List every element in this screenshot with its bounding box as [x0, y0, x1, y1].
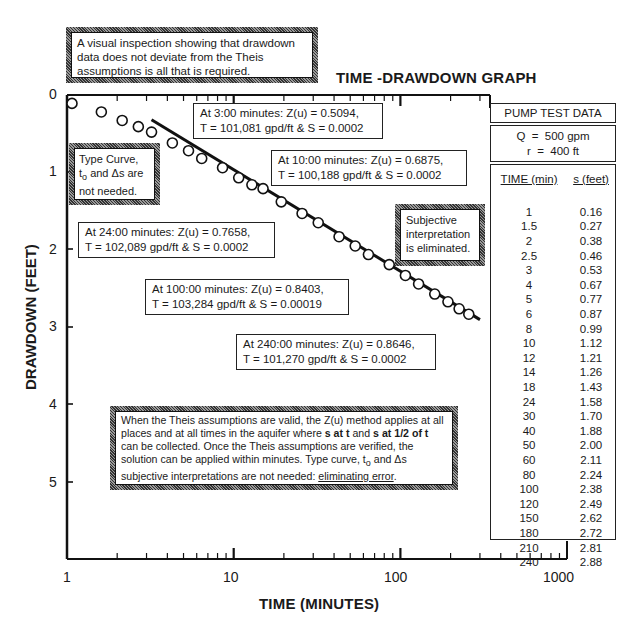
note-type-curve-line2: to and Δs are [79, 166, 150, 184]
drawdown-cell: 2.38 [567, 482, 615, 497]
time-cell: 30 [491, 409, 567, 424]
table-row: 1502.62 [491, 511, 615, 526]
data-point [197, 153, 207, 163]
time-cell: 2.5 [491, 248, 567, 263]
time-cell: 180 [491, 526, 567, 541]
table-row: 241.58 [491, 394, 615, 409]
table-row: 30.53 [491, 263, 615, 278]
data-point [363, 250, 373, 260]
table-row: 1802.72 [491, 526, 615, 541]
drawdown-cell: 2.49 [567, 496, 615, 511]
time-cell: 100 [491, 482, 567, 497]
table-row: 802.24 [491, 467, 615, 482]
table-row: 2402.88 [491, 555, 615, 570]
table-row: 10.16 [491, 205, 615, 220]
data-point [384, 260, 394, 270]
table-row: 502.00 [491, 438, 615, 453]
time-cell: 8 [491, 321, 567, 336]
data-point [350, 241, 360, 251]
time-cell: 1 [491, 205, 567, 220]
time-cell: 3 [491, 263, 567, 278]
pump-test-title: PUMP TEST DATA [490, 103, 616, 123]
drawdown-cell: 2.24 [567, 467, 615, 482]
drawdown-cell: 0.38 [567, 234, 615, 249]
data-point [147, 127, 157, 137]
time-cell: 120 [491, 496, 567, 511]
note-subjective-line2: interpretation [406, 227, 474, 241]
drawdown-cell: 1.12 [567, 336, 615, 351]
data-point [464, 309, 474, 319]
data-point [297, 208, 307, 218]
data-point [117, 115, 127, 125]
pump-test-panel: PUMP TEST DATA Q = 500 gpm r = 400 ft TI… [490, 103, 616, 542]
drawdown-cell: 0.16 [567, 205, 615, 220]
time-cell: 10 [491, 336, 567, 351]
data-point [234, 173, 244, 183]
time-cell: 40 [491, 424, 567, 439]
col-time-header: TIME (min) [501, 173, 558, 185]
time-cell: 1.5 [491, 219, 567, 234]
time-cell: 18 [491, 380, 567, 395]
drawdown-cell: 2.81 [567, 540, 615, 555]
time-cell: 80 [491, 467, 567, 482]
table-row: 2102.81 [491, 540, 615, 555]
time-cell: 12 [491, 351, 567, 366]
time-cell: 4 [491, 278, 567, 293]
table-row: 602.11 [491, 453, 615, 468]
annotation-3min: At 3:00 minutes: Z(u) = 0.5094,T = 101,0… [193, 103, 383, 139]
data-point [218, 163, 228, 173]
table-row: 121.21 [491, 351, 615, 366]
drawdown-cell: 1.21 [567, 351, 615, 366]
data-point [184, 146, 194, 156]
drawdown-cell: 1.58 [567, 394, 615, 409]
table-row: 50.77 [491, 292, 615, 307]
note-type-curve: Type Curve, to and Δs are not needed. [69, 143, 160, 205]
pump-test-table: TIME (min) s (feet) 10.161.50.2720.382.5… [490, 164, 616, 540]
data-point [443, 297, 453, 307]
drawdown-cell: 2.72 [567, 526, 615, 541]
note-bottom: When the Theis assumptions are valid, th… [110, 406, 458, 490]
table-row: 80.99 [491, 321, 615, 336]
drawdown-cell: 2.00 [567, 438, 615, 453]
drawdown-cell: 0.77 [567, 292, 615, 307]
drawdown-cell: 0.87 [567, 307, 615, 322]
note-type-curve-line1: Type Curve, [79, 152, 150, 166]
col-s-header: s (feet) [573, 173, 609, 185]
drawdown-cell: 1.70 [567, 409, 615, 424]
table-row: 101.12 [491, 336, 615, 351]
table-row: 2.50.46 [491, 248, 615, 263]
drawdown-cell: 2.62 [567, 511, 615, 526]
drawdown-cell: 2.11 [567, 453, 615, 468]
annotation-240min: At 240:00 minutes: Z(u) = 0.8646,T = 101… [236, 334, 436, 370]
data-point [247, 180, 257, 190]
table-row: 1202.49 [491, 496, 615, 511]
data-point [334, 232, 344, 242]
pump-q: Q = 500 gpm [491, 129, 615, 144]
time-cell: 5 [491, 292, 567, 307]
time-cell: 6 [491, 307, 567, 322]
time-cell: 2 [491, 234, 567, 249]
table-row: 60.87 [491, 307, 615, 322]
drawdown-cell: 0.99 [567, 321, 615, 336]
table-row: 40.67 [491, 278, 615, 293]
time-cell: 240 [491, 555, 567, 570]
time-cell: 14 [491, 365, 567, 380]
drawdown-cell: 0.67 [567, 278, 615, 293]
drawdown-cell: 0.27 [567, 219, 615, 234]
data-point [276, 197, 286, 207]
data-point [133, 122, 143, 132]
time-cell: 60 [491, 453, 567, 468]
drawdown-cell: 0.53 [567, 263, 615, 278]
annotation-24min: At 24:00 minutes: Z(u) = 0.7658,T = 102,… [78, 222, 275, 258]
annotation-10min: At 10:00 minutes: Z(u) = 0.6875,T = 100,… [271, 150, 467, 186]
drawdown-cell: 1.88 [567, 424, 615, 439]
data-point [96, 107, 106, 117]
note-subjective: Subjective interpretation is eliminated. [395, 204, 485, 266]
table-row: 301.70 [491, 409, 615, 424]
pump-test-params: Q = 500 gpm r = 400 ft [490, 125, 616, 162]
time-cell: 150 [491, 511, 567, 526]
note-subjective-line3: is eliminated. [406, 241, 474, 255]
pump-test-rows: 10.161.50.2720.382.50.4630.5340.6750.776… [491, 205, 615, 570]
data-point [167, 138, 177, 148]
pump-r: r = 400 ft [491, 144, 615, 159]
